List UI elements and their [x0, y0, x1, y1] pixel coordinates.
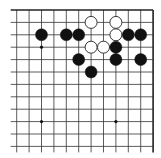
black-stone [73, 29, 85, 41]
black-stone [135, 29, 147, 41]
black-stone [36, 29, 48, 41]
white-stone [110, 29, 122, 41]
black-stone [135, 54, 147, 66]
go-board [0, 0, 161, 158]
star-point [40, 46, 43, 49]
white-stone [110, 16, 122, 28]
star-point [114, 120, 117, 123]
black-stone [73, 54, 85, 66]
black-stone [110, 54, 122, 66]
black-stone [110, 41, 122, 53]
white-stone [85, 16, 97, 28]
black-stone [122, 29, 134, 41]
white-stone [98, 41, 110, 53]
black-stone [60, 29, 72, 41]
black-stone [85, 66, 97, 78]
star-point [40, 120, 43, 123]
white-stone [85, 41, 97, 53]
